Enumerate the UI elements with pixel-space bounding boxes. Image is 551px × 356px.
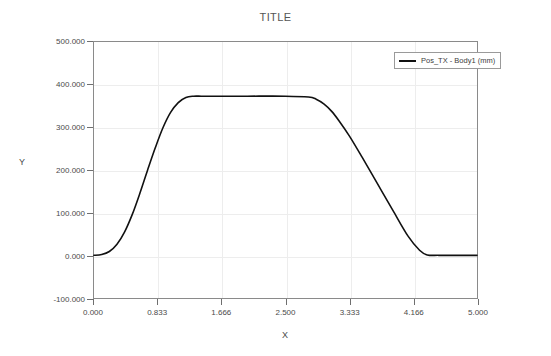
x-tick-mark [221,299,222,305]
series-lines [94,42,477,298]
y-tick-label: 500.000 [56,37,85,46]
y-tick-label: -100.000 [53,295,85,304]
x-tick-label: 5.000 [468,308,488,317]
x-tick-label: 4.166 [404,308,424,317]
x-tick-label: 2.500 [275,308,295,317]
legend-line-swatch [399,60,416,62]
legend-label: Pos_TX - Body1 (mm) [421,56,495,65]
x-tick-mark [157,299,158,305]
x-tick-mark [478,299,479,305]
x-tick-mark [414,299,415,305]
x-axis-label: X [282,330,288,340]
y-tick-label: 0.000 [65,252,85,261]
x-tick-mark [286,299,287,305]
y-axis-label: Y [19,157,25,167]
x-tick-mark [93,299,94,305]
y-tick-label: 100.000 [56,209,85,218]
x-tick-mark [350,299,351,305]
chart-legend[interactable]: Pos_TX - Body1 (mm) [394,52,501,69]
x-tick-label: 0.000 [83,308,103,317]
plot-area [93,41,478,299]
chart-container: TITLE Y X -100.0000.000100.000200.000300… [0,0,551,356]
chart-title: TITLE [0,11,551,23]
y-tick-label: 200.000 [56,166,85,175]
y-tick-label: 400.000 [56,80,85,89]
x-tick-label: 1.666 [211,308,231,317]
series-line [94,96,477,255]
x-tick-label: 3.333 [340,308,360,317]
y-tick-label: 300.000 [56,123,85,132]
x-tick-label: 0.833 [147,308,167,317]
